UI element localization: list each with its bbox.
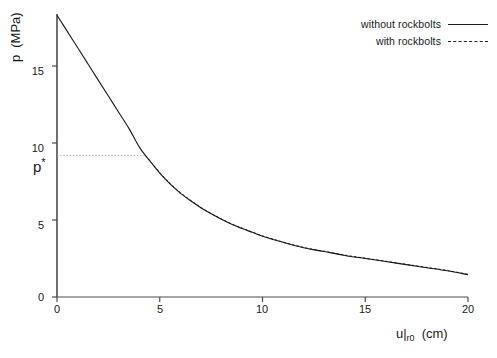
chart-legend: without rockbolts with rockbolts xyxy=(361,18,488,48)
y-axis-title-unit: (MPa) xyxy=(8,12,23,47)
x-tick-label-15: 15 xyxy=(354,303,376,315)
x-axis-title: u|r0(cm) xyxy=(396,326,448,343)
y-tick-label-0: 0 xyxy=(22,291,44,303)
x-tick-label-20: 20 xyxy=(457,303,479,315)
chart-figure: without rockbolts with rockbolts p(MPa) … xyxy=(0,0,497,358)
legend-label-without-rockbolts: without rockbolts xyxy=(361,19,441,30)
series-line-with-rockbolts xyxy=(145,155,468,274)
x-axis-ticks xyxy=(57,297,468,302)
x-axis-title-symbol: u| xyxy=(396,326,407,341)
x-axis-title-unit: (cm) xyxy=(422,326,448,341)
chart-series-layer xyxy=(57,15,468,274)
legend-item-with-rockbolts: with rockbolts xyxy=(376,35,488,48)
y-axis-title: p(MPa) xyxy=(8,0,23,62)
legend-label-with-rockbolts: with rockbolts xyxy=(376,36,441,47)
x-axis-title-subscript: r0 xyxy=(407,333,415,343)
p-star-superscript: * xyxy=(41,156,45,168)
y-tick-label-10: 10 xyxy=(22,142,44,154)
y-axis-title-symbol: p xyxy=(8,55,23,62)
p-star-annotation: p* xyxy=(33,156,46,175)
x-tick-label-5: 5 xyxy=(149,303,171,315)
legend-swatch-solid-line xyxy=(448,20,488,29)
chart-plot-area xyxy=(0,0,497,358)
x-tick-label-10: 10 xyxy=(251,303,273,315)
legend-item-without-rockbolts: without rockbolts xyxy=(361,18,488,31)
y-tick-label-5: 5 xyxy=(22,219,44,231)
legend-swatch-dashed-line xyxy=(448,37,488,46)
x-tick-label-0: 0 xyxy=(46,303,68,315)
y-tick-label-15: 15 xyxy=(22,65,44,77)
